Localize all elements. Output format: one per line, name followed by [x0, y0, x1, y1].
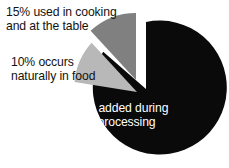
slice-label-natural: 10% occurs naturally in food [11, 55, 95, 84]
slice-label-cooking: 15% used in cooking and at the table [6, 5, 117, 34]
slice-label-processing: 75% added during food processing [71, 101, 168, 130]
pie-chart: 15% used in cooking and at the table 10%… [0, 0, 229, 168]
